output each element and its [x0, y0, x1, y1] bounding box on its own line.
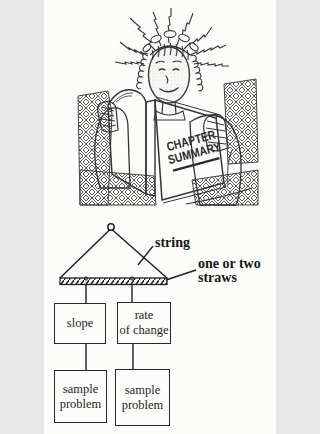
string-label: string: [155, 236, 190, 250]
sample-left-line1: sample: [63, 382, 98, 397]
face: [149, 47, 190, 103]
rate-box-line1: rate: [135, 308, 154, 323]
sample-right-line2: problem: [122, 398, 164, 413]
straws-pointer-line: [166, 270, 196, 280]
straws-label-line2: straws: [198, 271, 261, 285]
sample-problem-box-left: sample problem: [54, 370, 107, 423]
rate-of-change-box: rate of change: [117, 302, 171, 344]
rate-box-line2: of change: [120, 323, 169, 338]
reader-head: [115, 8, 229, 103]
slope-box-text: slope: [67, 316, 93, 331]
string-left: [60, 230, 110, 278]
straw-bar: [60, 278, 167, 285]
hanging-ring: [108, 224, 114, 230]
book-cover: CHAPTER SUMMARY: [163, 127, 224, 171]
string-pointer-line: [138, 246, 153, 265]
straws-label-line1: one or two: [198, 257, 261, 271]
reader-illustration: CHAPTER SUMMARY: [44, 0, 276, 217]
straws-label: one or two straws: [198, 257, 261, 284]
page: CHAPTER SUMMARY: [44, 0, 276, 434]
slope-box: slope: [54, 303, 106, 344]
sample-problem-box-right: sample problem: [115, 369, 170, 426]
sample-left-line2: problem: [60, 397, 102, 412]
sample-right-line1: sample: [125, 383, 160, 398]
